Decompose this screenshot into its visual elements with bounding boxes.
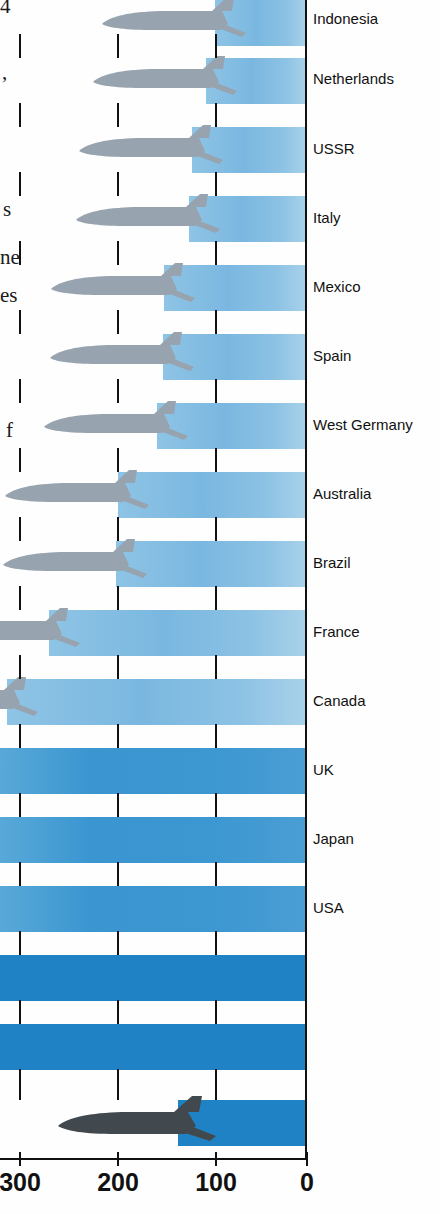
grid-tick — [19, 517, 21, 541]
bar-row — [0, 1100, 307, 1146]
bar-row — [0, 955, 307, 1001]
grid-tick — [19, 1069, 21, 1100]
grid-tick — [215, 517, 217, 541]
y-axis-line — [305, 0, 307, 1160]
grid-tick — [117, 793, 119, 817]
bar — [0, 1024, 307, 1070]
bar-row — [0, 1024, 307, 1070]
category-label: USA — [313, 899, 344, 916]
bar — [0, 886, 307, 932]
category-label: Italy — [313, 209, 341, 226]
grid-tick — [215, 724, 217, 748]
grid-tick — [215, 655, 217, 679]
bar-row — [0, 403, 307, 449]
bar — [206, 58, 307, 104]
grid-tick — [117, 586, 119, 610]
bar-row — [0, 265, 307, 311]
grid-tick — [117, 1069, 119, 1100]
bar-row — [0, 541, 307, 587]
grid-tick — [215, 103, 217, 127]
grid-tick — [215, 586, 217, 610]
axis-tick-mark — [306, 1152, 308, 1166]
category-label: USSR — [313, 140, 355, 157]
bar-row — [0, 472, 307, 518]
bar-row — [0, 679, 307, 725]
axis-tick-label: 300 — [0, 1168, 41, 1197]
grid-tick — [19, 379, 21, 403]
grid-tick — [117, 310, 119, 334]
grid-tick — [117, 241, 119, 265]
grid-tick — [117, 172, 119, 196]
grid-tick — [215, 931, 217, 955]
bar — [0, 817, 307, 863]
grid-tick — [117, 34, 119, 58]
category-label: Canada — [313, 692, 366, 709]
axis-tick-mark — [19, 1152, 21, 1166]
grid-tick — [19, 931, 21, 955]
bar — [215, 0, 307, 46]
grid-tick — [215, 310, 217, 334]
bar-row — [0, 334, 307, 380]
bar — [164, 265, 307, 311]
bar — [7, 679, 307, 725]
grid-tick — [19, 310, 21, 334]
grid-tick — [117, 655, 119, 679]
grid-tick — [19, 34, 21, 58]
grid-tick — [215, 241, 217, 265]
category-label: Brazil — [313, 554, 351, 571]
bar-row — [0, 0, 307, 46]
category-label: Spain — [313, 347, 351, 364]
grid-tick — [19, 172, 21, 196]
grid-tick — [117, 103, 119, 127]
axis-tick-mark — [215, 1152, 217, 1166]
axis-tick-label: 100 — [195, 1168, 237, 1197]
x-axis-line — [0, 1158, 307, 1160]
bar-row — [0, 610, 307, 656]
category-label: UK — [313, 761, 334, 778]
bar — [0, 955, 307, 1001]
bar — [163, 334, 307, 380]
category-label: Australia — [313, 485, 371, 502]
grid-tick — [19, 586, 21, 610]
grid-tick — [117, 862, 119, 886]
bar-row — [0, 196, 307, 242]
grid-tick — [19, 241, 21, 265]
bar-row — [0, 748, 307, 794]
grid-tick — [215, 379, 217, 403]
bar-row — [0, 127, 307, 173]
grid-tick — [19, 1000, 21, 1024]
grid-tick — [215, 448, 217, 472]
grid-tick — [19, 448, 21, 472]
bar-row — [0, 886, 307, 932]
grid-tick — [215, 172, 217, 196]
category-label: Japan — [313, 830, 354, 847]
bar — [49, 610, 307, 656]
grid-tick — [215, 862, 217, 886]
grid-tick — [117, 379, 119, 403]
category-label: West Germany — [313, 416, 413, 433]
grid-tick — [117, 931, 119, 955]
bar-row — [0, 817, 307, 863]
category-label: France — [313, 623, 360, 640]
grid-tick — [19, 724, 21, 748]
grid-tick — [19, 655, 21, 679]
grid-tick — [215, 793, 217, 817]
category-label: Indonesia — [313, 10, 378, 27]
grid-tick — [117, 1000, 119, 1024]
grid-tick — [117, 724, 119, 748]
grid-tick — [19, 793, 21, 817]
grid-tick — [19, 862, 21, 886]
grid-tick — [215, 1000, 217, 1024]
bar-row — [0, 58, 307, 104]
grid-tick — [215, 34, 217, 58]
bar-chart-figure: 4,sneesf 3002001000 IndonesiaNetherlands… — [0, 0, 440, 1214]
bar — [157, 403, 307, 449]
bar — [189, 196, 307, 242]
category-label: Netherlands — [313, 70, 394, 87]
grid-tick — [215, 1069, 217, 1100]
plot-area — [0, 0, 307, 1158]
axis-tick-label: 0 — [300, 1168, 314, 1197]
bar — [178, 1100, 307, 1146]
grid-tick — [19, 103, 21, 127]
category-label: Mexico — [313, 278, 361, 295]
